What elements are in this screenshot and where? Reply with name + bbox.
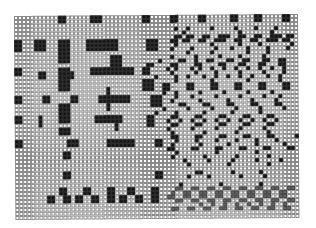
empty-cell (295, 214, 299, 218)
pattern-grid (14, 14, 299, 220)
